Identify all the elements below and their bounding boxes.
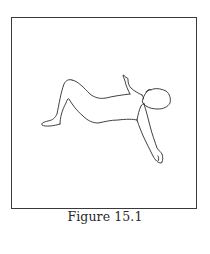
leg-front-outline [42,80,72,126]
raised-arm-outline [123,75,142,95]
torso-top-outline [72,80,130,98]
hand-detail [158,156,159,161]
figure-caption: Figure 15.1 [0,209,210,224]
leg-back-outline [60,99,137,124]
torso-side-outline [137,104,144,120]
extended-arm-outer [144,104,163,162]
head-outline [143,89,170,109]
